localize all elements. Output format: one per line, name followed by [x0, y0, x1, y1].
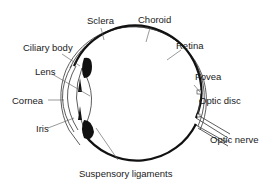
- label-fovea: Fovea: [195, 72, 221, 82]
- ciliary-body-upper: [82, 58, 92, 78]
- eye-diagram: Sclera Choroid Ciliary body Retina Lens …: [0, 0, 273, 186]
- label-sclera: Sclera: [87, 16, 114, 26]
- label-optic-disc: Optic disc: [199, 96, 241, 106]
- ciliary-body-lower: [82, 120, 94, 139]
- optic-disc-marker: [197, 114, 200, 117]
- label-lens: Lens: [35, 67, 56, 77]
- label-ciliary-body: Ciliary body: [23, 43, 73, 53]
- eye-cross-section-drawing: [0, 0, 273, 186]
- label-cornea: Cornea: [12, 96, 43, 106]
- label-retina: Retina: [176, 41, 203, 51]
- label-iris: Iris: [36, 124, 49, 134]
- label-choroid: Choroid: [138, 15, 171, 25]
- label-optic-nerve: Optic nerve: [210, 135, 259, 145]
- label-suspensory-ligaments: Suspensory ligaments: [79, 169, 172, 179]
